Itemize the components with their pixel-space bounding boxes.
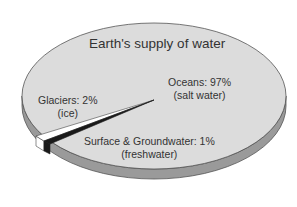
oceans-label-value: Oceans: 97% <box>168 76 231 89</box>
chart-title: Earth's supply of water <box>89 36 225 51</box>
surface-water-label-value: Surface & Groundwater: 1% <box>84 135 215 148</box>
glaciers-label-value: Glaciers: 2% <box>38 94 98 107</box>
surface-water-label: Surface & Groundwater: 1% (freshwater) <box>84 135 215 161</box>
glaciers-label: Glaciers: 2% (ice) <box>38 94 98 120</box>
oceans-label: Oceans: 97% (salt water) <box>168 76 231 102</box>
glaciers-label-note: (ice) <box>38 107 98 120</box>
surface-water-label-note: (freshwater) <box>84 148 215 161</box>
oceans-label-note: (salt water) <box>168 89 231 102</box>
